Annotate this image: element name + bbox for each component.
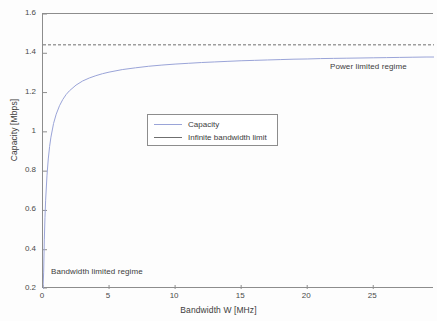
plot-area (42, 13, 433, 288)
legend-swatch-capacity (154, 124, 182, 126)
legend-label-infinite-bandwidth-limit: Infinite bandwidth limit (188, 134, 267, 142)
annotation-power-limited-regime: Power limited regime (330, 62, 407, 71)
capacity-curve (43, 57, 434, 289)
legend-swatch-infinite-bandwidth-limit (154, 137, 182, 139)
x-tick-label: 10 (170, 292, 179, 300)
x-tick-label: 5 (106, 292, 110, 300)
x-axis-title: Bandwidth W [MHz] (0, 305, 437, 315)
capacity-vs-bandwidth-figure: 1.6 1.4 1.2 1 0.8 0.6 0.4 0.2 0 5 10 15 … (0, 0, 437, 321)
plot-svg (43, 14, 434, 289)
legend-label-capacity: Capacity (188, 121, 219, 129)
annotation-bandwidth-limited-regime: Bandwidth limited regime (51, 267, 143, 276)
x-tick-label: 0 (40, 292, 44, 300)
tick-marks (43, 14, 373, 289)
legend: Capacity Infinite bandwidth limit (147, 114, 278, 146)
x-tick-label: 25 (368, 292, 377, 300)
legend-item-capacity: Capacity (148, 118, 277, 131)
x-tick-label: 15 (236, 292, 245, 300)
y-axis-title: Capacity [Mbps] (9, 70, 19, 190)
x-tick-label: 20 (302, 292, 311, 300)
legend-item-infinite-bandwidth-limit: Infinite bandwidth limit (148, 131, 277, 144)
